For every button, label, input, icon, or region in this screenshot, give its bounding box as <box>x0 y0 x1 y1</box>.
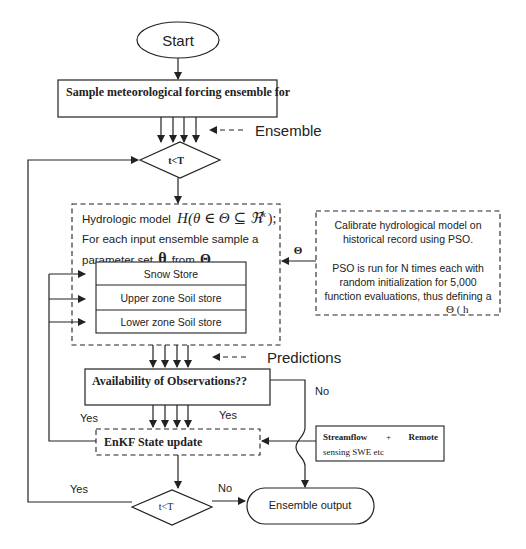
start-node: Start <box>137 22 219 58</box>
ensemble-arrows <box>161 117 196 142</box>
pso-line1: Calibrate hydrological model on <box>334 219 481 231</box>
obs-line2: sensing SWE etc <box>323 447 384 457</box>
pso-line2: historical record using PSO. <box>343 233 473 245</box>
enkf-label: EnKF State update <box>104 435 203 449</box>
decision-top-label: t<T <box>168 155 184 166</box>
availability-label: Availability of Observations?? <box>92 374 247 388</box>
pso-line5: random initialization for 5,000 <box>339 276 476 288</box>
hydro-line2: For each input ensemble sample a <box>82 233 259 245</box>
prediction-arrows <box>153 345 188 367</box>
hydro-formula-sup: k <box>262 209 267 219</box>
ensemble-output-label: Ensemble output <box>269 499 352 511</box>
ensemble-note: Ensemble <box>210 122 322 139</box>
hydro-formula-end: ); <box>268 211 277 227</box>
predictions-note: Predictions <box>213 349 341 366</box>
hydro-formula: H(θ ∈ Θ ⊆ ℜ <box>176 210 264 227</box>
start-label: Start <box>162 32 195 49</box>
obs-streamflow: Streamflow <box>323 432 368 442</box>
label-yes-bottom: Yes <box>70 483 88 495</box>
pso-line4: PSO is run for N times each with <box>332 262 484 274</box>
store-stack: Snow Store Upper zone Soil store Lower z… <box>96 262 246 333</box>
hydrologic-model-box: Hydrologic model H(θ ∈ Θ ⊆ ℜk); For each… <box>72 204 280 345</box>
theta-arrow-label: Θ <box>294 244 303 256</box>
label-no-top: No <box>315 385 329 397</box>
flowchart: Start Sample meteorological forcing ense… <box>0 0 526 549</box>
svg-text:Hydrologic model H(θ ∈ Θ: Hydrologic model H(θ ∈ Θ ⊆ ℜk); <box>82 209 276 227</box>
hydro-line1: Hydrologic model <box>82 213 171 225</box>
obs-plus: + <box>386 432 391 442</box>
store-upper-soil: Upper zone Soil store <box>121 292 222 304</box>
decision-bottom: t<T <box>132 490 212 525</box>
pso-line6: function evaluations, thus defining a <box>325 290 492 302</box>
enkf-update-box: EnKF State update <box>96 429 260 455</box>
ensemble-note-label: Ensemble <box>255 122 322 139</box>
decision-top: t<T <box>140 142 220 178</box>
observations-box: Streamflow + Remote sensing SWE etc <box>316 426 444 461</box>
decision-bottom-label: t<T <box>159 501 174 512</box>
store-lower-soil: Lower zone Soil store <box>121 316 222 328</box>
label-yes-right: Yes <box>219 409 237 421</box>
label-no-bottom: No <box>218 482 232 494</box>
yes-arrows <box>153 405 188 427</box>
pso-calibration-box: Calibrate hydrological model on historic… <box>316 211 500 316</box>
sample-forcing-box: Sample meteorological forcing ensemble f… <box>58 80 291 117</box>
ensemble-output-node: Ensemble output <box>247 488 374 524</box>
sample-forcing-label: Sample meteorological forcing ensemble f… <box>66 85 291 99</box>
availability-box: Availability of Observations?? <box>85 369 270 405</box>
pso-last-line: Θ ( h <box>446 303 469 316</box>
obs-remote: Remote <box>409 432 438 442</box>
no-observation-line <box>270 380 305 487</box>
store-snow: Snow Store <box>144 268 198 280</box>
label-yes-left: Yes <box>80 412 98 424</box>
theta-arrow: Θ <box>282 244 316 261</box>
predictions-note-label: Predictions <box>267 349 341 366</box>
